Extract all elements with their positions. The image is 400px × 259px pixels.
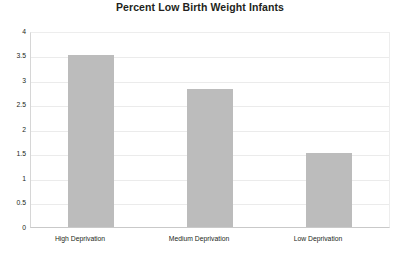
y-axis-tick-label: 1 <box>2 176 26 183</box>
x-axis-tick-label: Medium Deprivation <box>139 236 259 243</box>
bar-chart: Percent Low Birth Weight Infants 4 3.5 3… <box>0 0 400 259</box>
x-axis-tick-label: Low Deprivation <box>258 236 378 243</box>
bar-high-deprivation <box>68 55 114 227</box>
y-axis-tick-label: 3.5 <box>2 53 26 60</box>
bar-low-deprivation <box>306 153 352 227</box>
y-axis-tick-label: 1.5 <box>2 151 26 158</box>
y-axis-tick-label: 2 <box>2 127 26 134</box>
y-axis-tick-label: 3 <box>2 78 26 85</box>
y-axis-tick-label: 0.5 <box>2 200 26 207</box>
y-axis-tick-label: 4 <box>2 29 26 36</box>
bar-medium-deprivation <box>187 89 233 227</box>
plot-area <box>30 32 390 228</box>
y-axis-tick-label: 2.5 <box>2 102 26 109</box>
chart-title: Percent Low Birth Weight Infants <box>0 1 400 13</box>
x-axis-tick-label: High Deprivation <box>20 236 140 243</box>
y-axis-tick-label: 0 <box>2 225 26 232</box>
